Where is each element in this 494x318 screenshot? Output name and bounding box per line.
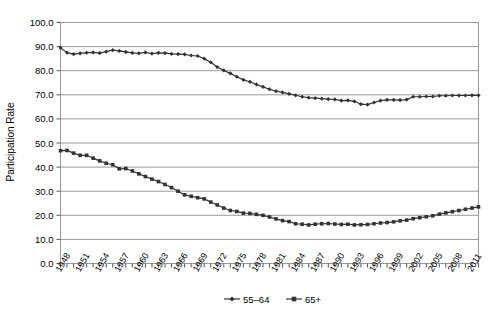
legend-item-65-plus: 65+ bbox=[286, 294, 322, 305]
data-point bbox=[183, 193, 187, 197]
data-point bbox=[144, 175, 148, 179]
data-point bbox=[287, 220, 291, 224]
data-point bbox=[359, 223, 363, 227]
data-point bbox=[111, 163, 115, 167]
data-point bbox=[222, 206, 226, 210]
y-tick-label: 70.0 bbox=[35, 89, 54, 100]
legend-marker bbox=[229, 296, 234, 301]
data-point bbox=[470, 206, 474, 210]
data-point bbox=[229, 209, 233, 213]
data-point bbox=[196, 196, 200, 200]
data-point bbox=[431, 214, 435, 218]
y-tick-label: 60.0 bbox=[35, 113, 54, 124]
data-point bbox=[372, 222, 376, 226]
legend-label: 65+ bbox=[305, 294, 322, 305]
data-point bbox=[255, 213, 259, 217]
data-point bbox=[170, 186, 174, 190]
data-point bbox=[131, 169, 135, 173]
data-point bbox=[137, 172, 141, 176]
data-point bbox=[477, 205, 481, 209]
data-point bbox=[78, 153, 82, 157]
chart-legend: 55–6465+ bbox=[224, 294, 322, 305]
y-axis-title: Participation Rate bbox=[5, 102, 16, 181]
y-tick-label: 0.0 bbox=[40, 258, 53, 269]
participation-rate-line-chart: 0.010.020.030.040.050.060.070.080.090.01… bbox=[0, 0, 494, 318]
data-point bbox=[398, 219, 402, 223]
data-point bbox=[124, 167, 128, 171]
data-point bbox=[235, 210, 239, 214]
data-point bbox=[72, 151, 76, 155]
data-point bbox=[444, 211, 448, 215]
data-point bbox=[85, 153, 89, 157]
data-point bbox=[189, 194, 193, 198]
data-point bbox=[438, 212, 442, 216]
legend-marker bbox=[292, 297, 297, 302]
data-point bbox=[333, 222, 337, 226]
legend-label: 55–64 bbox=[243, 294, 269, 305]
y-tick-label: 50.0 bbox=[35, 138, 54, 149]
data-point bbox=[163, 183, 167, 187]
data-point bbox=[268, 215, 272, 219]
data-point bbox=[59, 149, 63, 153]
data-point bbox=[346, 222, 350, 226]
data-point bbox=[320, 222, 324, 226]
data-point bbox=[215, 203, 219, 207]
data-point bbox=[65, 149, 69, 153]
data-point bbox=[340, 223, 344, 227]
data-point bbox=[405, 218, 409, 222]
y-tick-label: 40.0 bbox=[35, 162, 54, 173]
data-point bbox=[176, 189, 180, 193]
data-point bbox=[457, 209, 461, 213]
data-point bbox=[242, 211, 246, 215]
data-point bbox=[464, 207, 468, 211]
data-point bbox=[411, 217, 415, 221]
data-point bbox=[313, 222, 317, 226]
data-point bbox=[150, 177, 154, 181]
data-point bbox=[202, 197, 206, 201]
y-axis-tick-marks bbox=[57, 23, 61, 264]
data-point bbox=[91, 156, 95, 160]
data-point bbox=[353, 223, 357, 227]
y-tick-label: 20.0 bbox=[35, 210, 54, 221]
data-point bbox=[117, 167, 121, 171]
data-point bbox=[379, 221, 383, 225]
data-point bbox=[385, 221, 389, 225]
data-point bbox=[451, 210, 455, 214]
data-point bbox=[326, 222, 330, 226]
y-tick-label: 100.0 bbox=[30, 17, 54, 28]
data-point bbox=[300, 222, 304, 226]
data-point bbox=[392, 220, 396, 224]
data-point bbox=[157, 180, 161, 184]
data-point bbox=[294, 222, 298, 226]
y-tick-label: 80.0 bbox=[35, 65, 54, 76]
data-point bbox=[274, 217, 278, 221]
data-point bbox=[248, 212, 252, 216]
data-point bbox=[307, 223, 311, 227]
chart-container: 0.010.020.030.040.050.060.070.080.090.01… bbox=[0, 0, 494, 318]
data-point bbox=[281, 219, 285, 223]
legend-item-55-64: 55–64 bbox=[224, 294, 269, 305]
data-point bbox=[261, 214, 265, 218]
y-tick-label: 30.0 bbox=[35, 186, 54, 197]
data-point bbox=[424, 215, 428, 219]
data-point bbox=[98, 159, 102, 163]
data-point bbox=[418, 216, 422, 220]
data-point bbox=[366, 223, 370, 227]
y-tick-label: 10.0 bbox=[35, 234, 54, 245]
y-axis-tick-labels: 0.010.020.030.040.050.060.070.080.090.01… bbox=[30, 17, 54, 269]
y-tick-label: 90.0 bbox=[35, 41, 54, 52]
data-point bbox=[209, 200, 213, 204]
data-point bbox=[104, 161, 108, 165]
